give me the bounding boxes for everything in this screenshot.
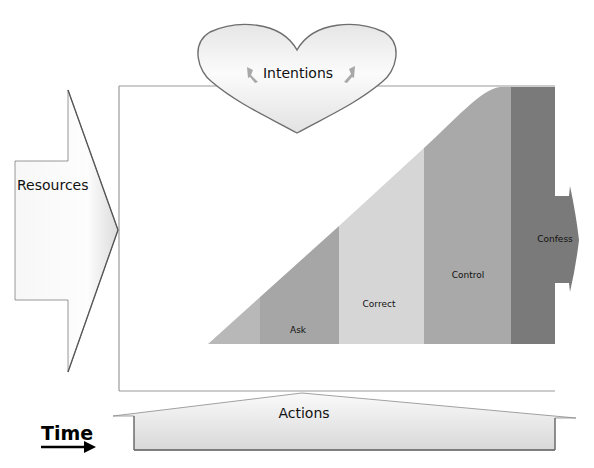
time-label: Time <box>41 422 93 444</box>
intentions-heart: Intentions <box>198 25 396 133</box>
actions-label: Actions <box>278 405 329 421</box>
stage-band-correct <box>339 80 424 350</box>
intentions-label: Intentions <box>263 65 333 81</box>
time-indicator: Time <box>41 422 96 453</box>
resources-arrow: Resources <box>15 90 118 372</box>
resources-label: Resources <box>17 177 89 193</box>
stage-label-correct: Correct <box>363 299 396 309</box>
actions-arrow: Actions <box>113 393 576 450</box>
diagram-canvas: Ask Correct Control Confess Resources In… <box>0 0 594 468</box>
stage-ramp <box>200 80 555 350</box>
ramp-tip <box>200 80 260 350</box>
stage-band-control <box>424 80 511 350</box>
stage-label-control: Control <box>452 270 485 280</box>
stage-label-ask: Ask <box>290 325 307 335</box>
stage-band-confess <box>511 80 555 350</box>
stage-label-confess: Confess <box>537 234 573 244</box>
